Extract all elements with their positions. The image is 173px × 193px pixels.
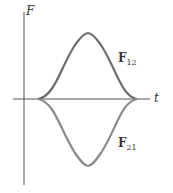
f12-label: F12 [118, 51, 137, 67]
y-axis-label: F [26, 4, 34, 18]
curve-f21 [38, 99, 137, 166]
force-time-diagram [0, 0, 173, 193]
f21-label: F21 [118, 136, 137, 152]
x-axis-label: t [154, 91, 159, 105]
